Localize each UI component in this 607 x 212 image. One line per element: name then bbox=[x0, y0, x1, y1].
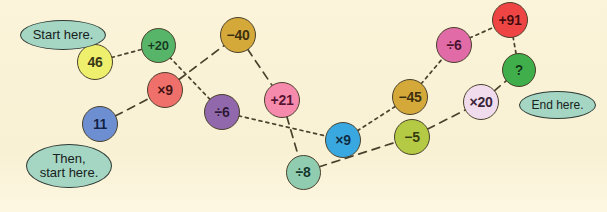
number-node-11[interactable]: 11 bbox=[82, 106, 118, 142]
callout-start-here: Start here. bbox=[20, 20, 106, 50]
number-node-p20[interactable]: +20 bbox=[141, 28, 176, 63]
number-node-d8[interactable]: ÷8 bbox=[286, 155, 321, 190]
number-node-p21[interactable]: +21 bbox=[264, 82, 300, 118]
number-node-d6p[interactable]: ÷6 bbox=[204, 94, 240, 130]
number-node-x20[interactable]: ×20 bbox=[463, 84, 499, 120]
number-node-46[interactable]: 46 bbox=[77, 44, 113, 80]
number-node-p91[interactable]: +91 bbox=[492, 2, 528, 38]
number-node-x9b[interactable]: ×9 bbox=[325, 122, 361, 158]
number-node-m45[interactable]: −45 bbox=[392, 79, 428, 115]
callout-then-start-here: Then, start here. bbox=[26, 144, 112, 188]
puzzle-canvas: 46+20×911−40÷6+21÷8×9−45−5÷6×20+91? Star… bbox=[0, 0, 607, 212]
number-node-q[interactable]: ? bbox=[502, 53, 536, 87]
number-node-d6k[interactable]: ÷6 bbox=[436, 27, 472, 63]
then-start-here-chain bbox=[115, 45, 507, 167]
callout-end-here: End here. bbox=[519, 91, 596, 119]
number-node-x9r[interactable]: ×9 bbox=[147, 72, 183, 108]
number-node-m5[interactable]: −5 bbox=[394, 119, 430, 155]
number-node-m40[interactable]: −40 bbox=[220, 17, 256, 53]
